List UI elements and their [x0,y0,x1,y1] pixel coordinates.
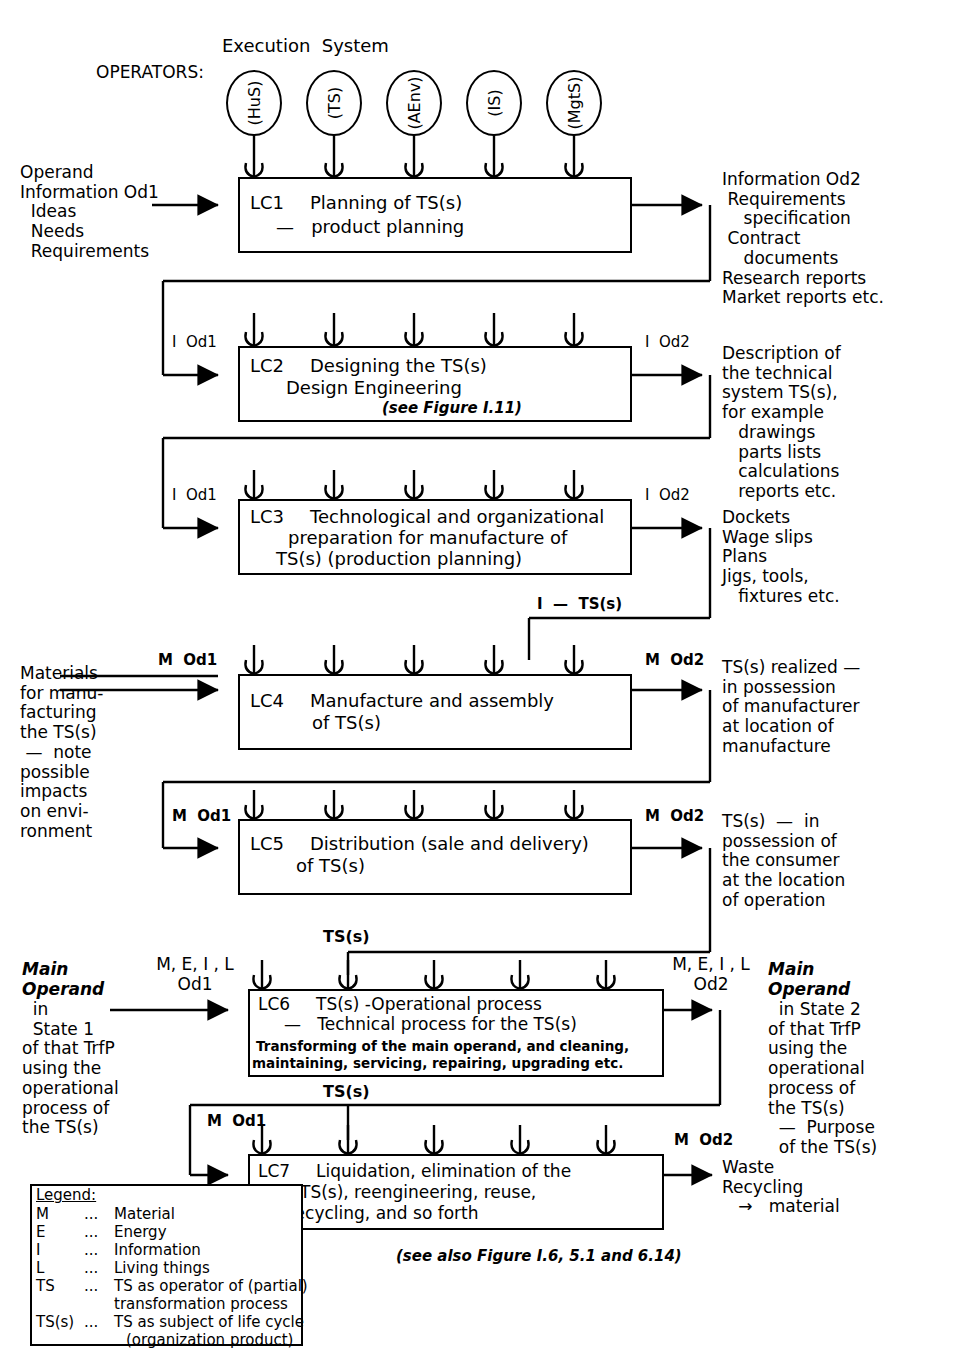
lc3-input-label: I Od1 [172,487,217,504]
legend-row: I...Information [36,1241,201,1259]
lc4-code: LC4 [250,690,284,711]
legend-text: Material [114,1205,175,1223]
lc6-subtitle: — Technical process for the TS(s) [284,1014,577,1034]
legend-symbol: L [36,1259,84,1277]
legend-text: TS as subject of life cycle [114,1313,304,1331]
legend-text: Information [114,1241,201,1259]
legend-symbol: E [36,1223,84,1241]
figure-reference-note: (see also Figure I.6, 5.1 and 6.14) [396,1248,682,1265]
lc5-subtitle: of TS(s) [296,855,365,876]
lc2-subtitle: Design Engineering [286,377,462,398]
lc5-input-label: M Od1 [172,808,231,825]
lc6-feedback-label: TS(s) [323,928,370,947]
legend-symbol: M [36,1205,84,1223]
lc3-subtitle: preparation for manufacture of [288,527,567,548]
legend-row: E...Energy [36,1223,167,1241]
operator-label-0: (HuS) [245,81,264,126]
lc6-detail-line1: Transforming of the main operand, and cl… [256,1038,629,1054]
legend-text: (organization product) [126,1331,293,1349]
operators-label: OPERATORS: [96,63,204,83]
lc6-output-label: M, E, I , L Od2 [664,955,758,994]
legend-dots: ... [84,1205,114,1223]
legend-row: TS...TS as operator of (partial) [36,1277,308,1295]
lc4-output-text: TS(s) realized — in possession of manufa… [722,658,860,757]
lc2-code: LC2 [250,355,284,376]
legend-dots: ... [84,1277,114,1295]
legend-text: Energy [114,1223,167,1241]
lc6-detail-line2: maintaining, servicing, repairing, upgra… [252,1055,623,1071]
lc6-input-operand-italic: Main Operand [22,960,104,999]
legend-title: Legend: [36,1187,96,1204]
legend-row-continuation: (organization product) [126,1331,293,1349]
lc2-title: Designing the TS(s) [310,355,487,376]
legend-dots: ... [84,1259,114,1277]
lc1-input-text: Operand Information Od1 Ideas Needs Requ… [20,163,159,262]
lc2-note: (see Figure I.11) [382,399,522,417]
lc6-output-operand-italic: Main Operand [768,960,850,999]
lc4-feedback-label: I — TS(s) [537,596,622,613]
lc4-input-label: M Od1 [158,652,217,669]
lc7-code: LC7 [258,1161,290,1181]
lc1-title: Planning of TS(s) [310,192,462,213]
lc2-output-text: Description of the technical system TS(s… [722,344,841,502]
lc1-code: LC1 [250,192,284,213]
legend-text: TS as operator of (partial) [114,1277,308,1295]
lc5-code: LC5 [250,833,284,854]
lc7-title: Liquidation, elimination of the [316,1161,571,1181]
operator-label-1: (TS) [325,87,344,119]
lc5-output-label: M Od2 [645,808,704,825]
legend-row: TS(s)...TS as subject of life cycle [36,1313,304,1331]
legend-symbol: TS(s) [36,1313,84,1331]
lc4-title: Manufacture and assembly [310,690,554,711]
legend-symbol: TS [36,1277,84,1295]
lc7-output-label: M Od2 [674,1132,733,1149]
lc3-output-text: Dockets Wage slips Plans Jigs, tools, fi… [722,508,840,607]
execution-system-label: Execution System [222,36,389,57]
lc6-title: TS(s) -Operational process [316,994,542,1014]
lc6-input-operand-rest: in State 1 of that TrfP using the operat… [22,1000,119,1138]
legend-dots: ... [84,1313,114,1331]
lc1-subtitle: — product planning [276,216,464,237]
legend-row: M...Material [36,1205,175,1223]
legend-dots: ... [84,1223,114,1241]
legend-symbol: I [36,1241,84,1259]
lc4-output-label: M Od2 [645,652,704,669]
lc7-input-label: M Od1 [207,1113,266,1130]
legend-row: L...Living things [36,1259,210,1277]
lc7-feedback-label: TS(s) [323,1083,370,1102]
legend-text: transformation process [114,1295,288,1313]
lc7-subtitle: TS(s), reengineering, reuse, [300,1182,536,1202]
diagram-canvas: OPERATORS: Execution System (HuS) (TS) (… [0,0,956,1359]
lc7-output-text: Waste Recycling → material [722,1158,840,1217]
lc2-input-label: I Od1 [172,334,217,351]
lc6-output-operand-rest: in State 2 of that TrfP using the operat… [768,1000,877,1158]
lc3-detail: TS(s) (production planning) [276,548,522,569]
legend-text: Living things [114,1259,210,1277]
lc3-title: Technological and organizational [310,506,604,527]
lc4-subtitle: of TS(s) [312,712,381,733]
legend-dots: ... [84,1241,114,1259]
operator-label-2: (AEnv) [405,76,424,129]
operator-label-3: (IS) [485,89,504,116]
stage-box-lc1[interactable] [238,177,632,253]
lc3-code: LC3 [250,506,284,527]
lc5-title: Distribution (sale and delivery) [310,833,589,854]
lc6-input-label: M, E, I , L Od1 [148,955,242,994]
lc1-output-text: Information Od2 Requirements specificati… [722,170,884,308]
legend-row-continuation: transformation process [114,1295,288,1313]
lc2-output-label: I Od2 [645,334,690,351]
lc5-output-text: TS(s) — in possession of the consumer at… [722,812,845,911]
stage-box-lc4[interactable] [238,674,632,750]
operator-label-4: (MgtS) [565,77,584,130]
lc4-input-text: Materials for manu- facturing the TS(s) … [20,664,103,841]
lc6-code: LC6 [258,994,290,1014]
lc3-output-label: I Od2 [645,487,690,504]
lc7-detail: recycling, and so forth [288,1203,479,1223]
